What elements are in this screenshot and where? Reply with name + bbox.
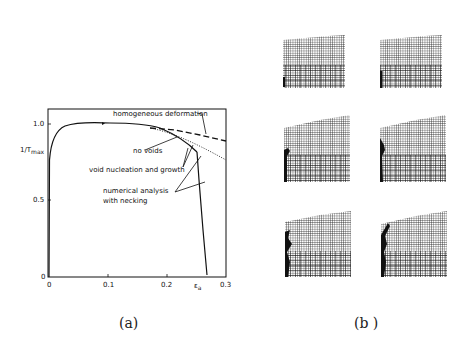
chart-a: 1.0 0.5 0 1/Tmax 0 0.1 0.2 0.3 εa homoge… [20, 109, 231, 331]
x-axis-label: εa [194, 282, 202, 291]
x-tick-03: 0.3 [220, 281, 231, 289]
x-tick-0: 0 [47, 281, 51, 289]
label-numerical-2: with necking [103, 197, 148, 205]
curve-necking-drop [197, 152, 207, 275]
mesh-panel-1 [283, 35, 345, 88]
y-tick-0: 0 [41, 273, 45, 281]
label-void-nucleation: void nucleation and growth [89, 166, 185, 174]
caption-a: (a) [119, 315, 138, 331]
mesh-panel-4 [380, 115, 446, 182]
caption-b: (b ) [354, 315, 378, 331]
label-numerical-1: numerical analysis [103, 187, 169, 195]
curve-homogeneous [150, 128, 226, 141]
x-tick-01: 0.1 [103, 281, 114, 289]
mesh-panels: (b ) [283, 35, 447, 331]
mesh-panel-2 [380, 35, 442, 88]
mesh-panel-6 [381, 211, 447, 277]
y-tick-05: 0.5 [33, 196, 44, 204]
mesh-panel-3 [284, 115, 350, 182]
mesh-panel-5 [285, 211, 351, 277]
y-axis: 1.0 0.5 0 1/Tmax [20, 120, 51, 281]
y-tick-1: 1.0 [33, 120, 44, 128]
y-axis-label: 1/Tmax [20, 146, 45, 155]
figure-canvas: 1.0 0.5 0 1/Tmax 0 0.1 0.2 0.3 εa homoge… [0, 0, 466, 348]
x-tick-02: 0.2 [161, 281, 172, 289]
label-homogeneous: homogeneous deformation [113, 110, 208, 118]
label-no-voids: no voids [133, 147, 163, 155]
